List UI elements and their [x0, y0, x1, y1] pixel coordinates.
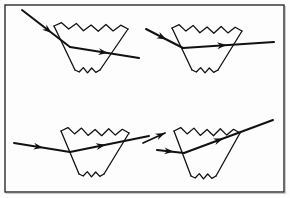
border-rect: [5, 5, 284, 192]
outer-border: [5, 5, 286, 194]
figure-root: [0, 0, 290, 198]
ray-refraction-figure: [0, 0, 290, 198]
